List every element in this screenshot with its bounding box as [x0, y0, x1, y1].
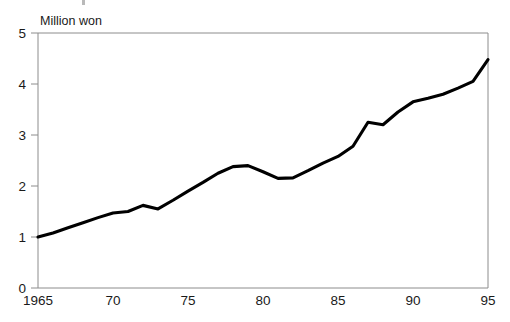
chart-figure: 012345 1965707580859095 Million won — [0, 0, 510, 322]
line-chart-canvas: 012345 1965707580859095 Million won — [0, 0, 510, 322]
x-axis-tick-label: 75 — [180, 293, 195, 308]
x-axis-tick-label: 80 — [255, 293, 270, 308]
x-axis-tick-label: 85 — [330, 293, 345, 308]
y-axis-tick-label: 4 — [18, 77, 26, 92]
data-series-group — [38, 60, 488, 237]
x-axis-tick-labels: 1965707580859095 — [23, 293, 496, 308]
y-axis-tick-label: 5 — [18, 26, 26, 41]
y-axis-tick-labels: 012345 — [18, 26, 26, 296]
series-line-million-won — [38, 60, 488, 237]
plot-frame — [38, 33, 488, 288]
y-axis-label: Million won — [40, 14, 102, 28]
x-axis-tick-label: 70 — [105, 293, 120, 308]
x-axis-tick-label: 1965 — [23, 293, 53, 308]
y-axis-tick-label: 3 — [18, 128, 26, 143]
y-axis-ticks — [31, 33, 38, 288]
page-edge-artifact — [82, 0, 85, 5]
y-axis-tick-label: 1 — [18, 230, 26, 245]
x-axis-tick-label: 95 — [480, 293, 495, 308]
x-axis-tick-label: 90 — [405, 293, 420, 308]
y-axis-tick-label: 2 — [18, 179, 26, 194]
